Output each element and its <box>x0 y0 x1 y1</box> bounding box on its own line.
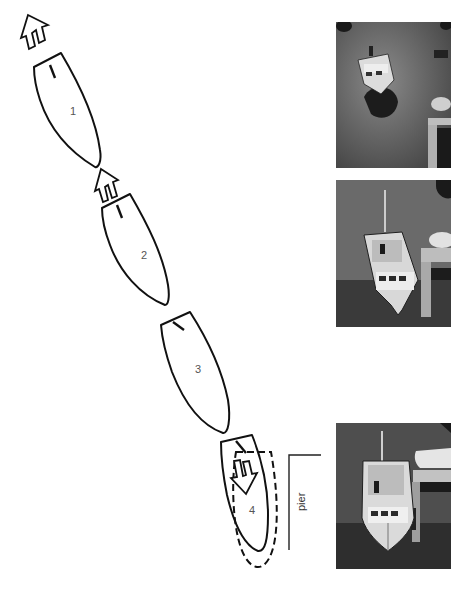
boat-photo-image <box>336 22 451 168</box>
boat-photo-image <box>336 423 451 569</box>
photo-boat-docked <box>336 423 451 569</box>
boat-hull <box>34 53 101 167</box>
forward-arrow-icon <box>95 169 118 202</box>
boat-bow-marker <box>173 322 184 330</box>
photo-boat-approaching <box>336 22 451 168</box>
pier: pier <box>289 455 321 550</box>
boat-bow-marker <box>117 205 122 218</box>
boat-position-2: 2 <box>95 169 169 305</box>
reverse-arrow-icon <box>231 460 257 494</box>
position-label: 4 <box>249 504 255 516</box>
boat-photo-image <box>336 180 451 327</box>
position-label: 3 <box>195 363 201 375</box>
photo-boat-near-pier <box>336 180 451 327</box>
forward-arrow-icon <box>21 15 48 49</box>
position-label: 1 <box>70 105 76 117</box>
boat-position-3: 3 <box>161 312 229 433</box>
boat-hull <box>102 194 169 305</box>
position-label: 2 <box>141 249 147 261</box>
boat-bow-marker <box>50 65 55 78</box>
pier-label: pier <box>295 492 307 511</box>
boat-position-4: 4 <box>221 435 277 567</box>
boat-position-1: 1 <box>21 15 101 167</box>
